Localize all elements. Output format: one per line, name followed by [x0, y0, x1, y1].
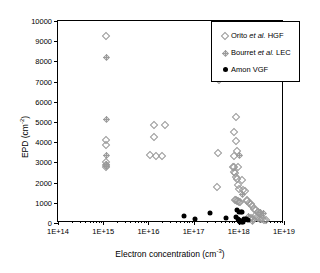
x-tick-minor [232, 221, 233, 223]
x-tick-mark [239, 221, 240, 225]
legend-label-2: Amon VGF [231, 65, 268, 74]
data-point-series-2 [233, 214, 238, 219]
x-tick-minor [282, 221, 283, 223]
data-point-series-0 [232, 197, 238, 203]
legend-marker-open-diamond-icon [219, 33, 231, 39]
legend-item-1[interactable]: Bourret et al. LEC [219, 44, 299, 61]
legend-item-2[interactable]: Amon VGF [219, 61, 299, 78]
data-point-series-0 [103, 162, 109, 168]
data-point-series-0 [233, 114, 239, 120]
data-point-series-1 [103, 54, 109, 60]
x-tick-label: 1E+15 [92, 227, 114, 236]
data-point-series-2 [236, 209, 241, 214]
x-tick-minor [144, 221, 145, 223]
data-point-series-2 [240, 218, 245, 223]
data-point-series-0 [240, 187, 246, 193]
data-point-series-1 [236, 152, 242, 158]
x-tick-minor [215, 221, 216, 223]
data-point-series-2 [244, 216, 249, 221]
x-tick-minor [162, 221, 163, 223]
x-tick-label: 1E+19 [273, 227, 295, 236]
y-tick-mark [54, 102, 58, 103]
y-tick-mark [54, 183, 58, 184]
data-point-series-0 [242, 188, 248, 194]
x-tick-minor [141, 221, 142, 223]
x-tick-minor [274, 221, 275, 223]
data-point-series-0 [257, 211, 263, 217]
data-point-series-2 [238, 210, 243, 215]
x-tick-mark [284, 221, 285, 225]
y-axis-title-tail: ) [20, 115, 30, 118]
data-point-series-0 [256, 210, 262, 216]
x-tick-minor [280, 221, 281, 223]
data-point-series-0 [151, 134, 157, 140]
x-tick-minor [135, 221, 136, 223]
y-tick-mark [54, 203, 58, 204]
data-point-series-0 [233, 138, 239, 144]
data-point-series-1 [103, 152, 109, 158]
data-point-series-1 [239, 191, 245, 197]
data-point-series-2 [207, 211, 212, 216]
data-point-series-1 [103, 161, 109, 167]
x-tick-minor [90, 221, 91, 223]
x-axis-title-base: Electron concentration (cm [115, 249, 216, 259]
data-point-series-0 [151, 122, 157, 128]
legend-marker-filled-circle-icon [219, 67, 231, 72]
y-tick-label: 2000 [35, 178, 52, 187]
x-tick-minor [221, 221, 222, 223]
x-tick-mark [58, 221, 59, 225]
data-point-series-0 [233, 174, 239, 180]
data-point-series-0 [162, 122, 168, 128]
data-point-series-1 [245, 213, 251, 219]
x-tick-minor [170, 221, 171, 223]
data-point-series-1 [103, 116, 109, 122]
legend-label-0: Orito et al. HGF [231, 31, 284, 40]
y-tick-label: 6000 [35, 97, 52, 106]
x-tick-minor [192, 221, 193, 223]
data-point-series-2 [234, 207, 239, 212]
y-tick-mark [54, 142, 58, 143]
x-tick-minor [189, 221, 190, 223]
data-point-series-0 [214, 184, 220, 190]
data-point-series-0 [254, 214, 260, 220]
y-axis-title-base: EPD (cm [20, 124, 30, 158]
data-point-series-0 [252, 213, 258, 219]
data-point-series-0 [234, 176, 240, 182]
data-point-series-2 [239, 210, 244, 215]
x-tick-minor [270, 221, 271, 223]
data-point-series-0 [236, 186, 242, 192]
x-tick-minor [93, 221, 94, 223]
data-point-series-0 [236, 199, 242, 205]
x-tick-minor [80, 221, 81, 223]
y-tick-mark [54, 122, 58, 123]
data-point-series-0 [244, 197, 250, 203]
data-point-series-0 [103, 142, 109, 148]
y-tick-mark [54, 61, 58, 62]
x-tick-minor [96, 221, 97, 223]
data-point-series-1 [103, 163, 109, 169]
x-tick-mark [103, 221, 104, 225]
y-tick-mark [54, 82, 58, 83]
y-tick-mark [54, 41, 58, 42]
x-tick-minor [117, 221, 118, 223]
x-axis-title: Electron concentration (cm-3) [57, 248, 283, 259]
data-point-series-0 [232, 170, 238, 176]
x-tick-minor [72, 221, 73, 223]
data-point-series-1 [260, 210, 266, 216]
data-point-series-0 [244, 198, 250, 204]
legend-item-0[interactable]: Orito et al. HGF [219, 27, 299, 44]
y-tick-mark [54, 21, 58, 22]
x-tick-label: 1E+16 [137, 227, 159, 236]
data-point-series-0 [255, 209, 261, 215]
data-point-series-2 [241, 220, 246, 225]
data-point-series-0 [235, 164, 241, 170]
x-tick-minor [207, 221, 208, 223]
data-point-series-0 [153, 153, 159, 159]
data-point-series-0 [235, 182, 241, 188]
x-tick-minor [184, 221, 185, 223]
data-point-series-0 [233, 197, 239, 203]
data-point-series-0 [147, 152, 153, 158]
x-tick-mark [194, 221, 195, 225]
data-point-series-0 [234, 198, 240, 204]
x-tick-minor [237, 221, 238, 223]
